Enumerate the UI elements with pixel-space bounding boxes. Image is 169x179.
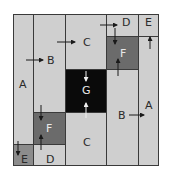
packing-diagram: A E B F D C G C D F B E A [13, 14, 159, 166]
arrows-overlay [13, 14, 159, 166]
